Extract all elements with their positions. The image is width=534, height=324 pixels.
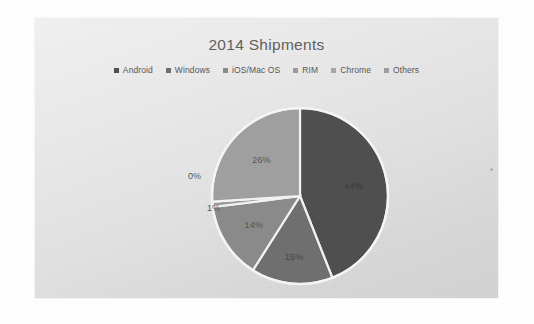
legend-swatch-windows	[166, 68, 171, 73]
legend-item-chrome[interactable]: Chrome	[331, 65, 371, 75]
legend-label-chrome: Chrome	[340, 65, 371, 75]
legend-item-ios-mac-os[interactable]: iOS/Mac OS	[223, 65, 280, 75]
legend-swatch-android	[114, 68, 119, 73]
pie-label-android: 44%	[344, 181, 363, 191]
legend-label-rim: RIM	[302, 65, 318, 75]
pie-label-ios-mac-os: 14%	[245, 220, 264, 230]
legend-label-android: Android	[123, 65, 153, 75]
legend-swatch-chrome	[331, 68, 336, 73]
pie-svg: 44%15%14%26%	[198, 105, 402, 287]
page-root: 2014 Shipments Android Windows iOS/Mac O…	[0, 0, 534, 324]
pie-label-rim-outside: 1%	[207, 203, 220, 213]
chart-legend: Android Windows iOS/Mac OS RIM Chrome Ot…	[35, 65, 498, 75]
chart-title: 2014 Shipments	[35, 36, 498, 54]
pie-label-others: 26%	[252, 155, 271, 165]
legend-item-android[interactable]: Android	[114, 65, 153, 75]
legend-item-others[interactable]: Others	[384, 65, 419, 75]
legend-item-rim[interactable]: RIM	[293, 65, 318, 75]
dust-speck-artifact	[490, 168, 493, 171]
pie-chart: 44%15%14%26% 0% 1%	[198, 105, 402, 287]
legend-label-windows: Windows	[175, 65, 210, 75]
legend-swatch-others	[384, 68, 389, 73]
chart-panel: 2014 Shipments Android Windows iOS/Mac O…	[35, 18, 498, 298]
legend-swatch-rim	[293, 68, 298, 73]
pie-label-chrome-outside: 0%	[188, 171, 201, 181]
legend-label-others: Others	[393, 65, 419, 75]
legend-item-windows[interactable]: Windows	[166, 65, 210, 75]
pie-label-windows: 15%	[285, 252, 304, 262]
legend-swatch-ios-mac-os	[223, 68, 228, 73]
legend-label-ios-mac-os: iOS/Mac OS	[232, 65, 280, 75]
